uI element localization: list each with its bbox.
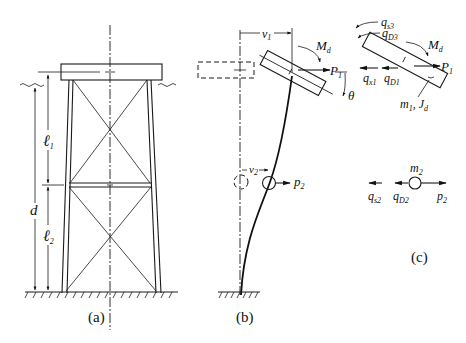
x-brace-lower-2 xyxy=(66,187,151,291)
fixed-support-hatching xyxy=(219,292,258,298)
label-qx1: qx1 xyxy=(363,71,377,87)
label-P1: P1 xyxy=(329,63,342,80)
x-brace-lower-1 xyxy=(69,187,156,291)
caption-a: (a) xyxy=(88,309,105,326)
label-Md-c: Md xyxy=(427,37,444,54)
x-brace-upper-1 xyxy=(73,80,150,183)
leader-m1-Jd xyxy=(418,80,429,97)
panel-b-deformed-model: v1 v2 Md P1 θ p2 (b) xyxy=(198,26,355,326)
label-theta: θ xyxy=(348,88,355,103)
rotation-theta-arrow xyxy=(343,73,345,96)
structural-dynamics-figure: ℓ1 ℓ2 d (a) v1 v2 xyxy=(0,0,466,343)
label-qD1: qD1 xyxy=(384,71,400,87)
water-surface-left xyxy=(20,84,44,87)
label-qD2: qD2 xyxy=(393,189,409,205)
label-m2: m2 xyxy=(410,161,423,177)
label-d: d xyxy=(30,202,38,218)
label-P1-c: P1 xyxy=(440,59,453,76)
label-qs2: qs2 xyxy=(368,189,381,205)
caption-b: (b) xyxy=(236,309,254,326)
force-qs3-arrow xyxy=(356,22,378,28)
water-surface-right xyxy=(158,84,176,87)
undeformed-mass xyxy=(234,175,248,189)
deformed-column xyxy=(241,76,292,295)
label-p2: p2 xyxy=(293,174,305,191)
label-m1-Jd: m1, Jd xyxy=(400,97,429,113)
free-body-mass-m2 xyxy=(409,177,421,189)
right-leg-outer xyxy=(151,80,161,293)
panel-c-free-body: qs3 qD3 Md P1 qx1 qD1 m1, Jd m2 qs2 qD2 … xyxy=(356,15,453,266)
deformed-deck xyxy=(256,48,337,101)
moment-Md-arrow-c xyxy=(406,42,428,56)
label-Md: Md xyxy=(315,38,332,55)
label-p2-c: p2 xyxy=(436,189,447,205)
x-brace-upper-2 xyxy=(70,80,147,183)
seabed-hatching xyxy=(25,292,172,298)
panel-a-jacket-platform: ℓ1 ℓ2 d (a) xyxy=(20,25,178,330)
caption-c: (c) xyxy=(411,249,428,266)
